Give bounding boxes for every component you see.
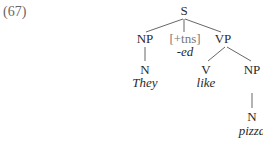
leaf-they: They <box>132 76 157 89</box>
tree-branches <box>0 0 263 142</box>
node-s: S <box>180 4 187 17</box>
node-object-np: NP <box>244 63 261 76</box>
node-object-n: N <box>247 110 256 123</box>
branch-vp-v <box>208 47 225 61</box>
leaf-tense-affix: -ed <box>177 45 194 58</box>
node-vp: VP <box>215 32 232 45</box>
leaf-pizza: pizza <box>239 124 263 137</box>
leaf-like: like <box>197 76 216 89</box>
node-subject-np: NP <box>137 32 154 45</box>
branch-vp-np <box>227 47 251 61</box>
